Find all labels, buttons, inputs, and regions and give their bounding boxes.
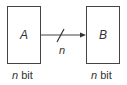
register-a-caption: n bit (12, 69, 33, 81)
register-b-caption: n bit (91, 69, 112, 81)
bus-width-label: n (59, 44, 65, 56)
register-b-caption-unit: bit (97, 69, 112, 81)
arrowhead-icon (80, 33, 86, 38)
register-a-caption-unit: bit (18, 69, 33, 81)
